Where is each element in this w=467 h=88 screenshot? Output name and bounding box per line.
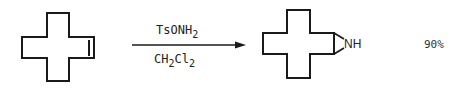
reaction-scheme: TsONH2 CH2Cl2 NH 90% (0, 0, 467, 88)
nh-label: NH (344, 37, 361, 51)
reagent-label: TsONH2 (156, 23, 198, 40)
yield-label: 90% (424, 38, 444, 51)
reactant-structure (22, 13, 94, 81)
arrow-head-icon (235, 42, 246, 49)
reactant-ring (22, 13, 94, 81)
reaction-arrow-group: TsONH2 CH2Cl2 (132, 23, 246, 69)
aziridine-bonds (334, 33, 344, 54)
product-ring (263, 10, 334, 78)
product-structure: NH (263, 10, 361, 78)
solvent-label: CH2Cl2 (154, 52, 195, 69)
